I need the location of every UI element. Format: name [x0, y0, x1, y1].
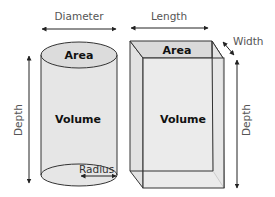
box-depth-label: Depth [240, 104, 252, 136]
cylinder-depth-label: Depth [12, 104, 24, 136]
length-label: Length [151, 10, 187, 22]
cylinder-area-label: Area [65, 49, 94, 62]
box-volume-label: Volume [160, 113, 206, 126]
diameter-label: Diameter [54, 10, 104, 22]
shapes-diagram: Diameter Length Width Depth Depth Area V… [0, 0, 275, 197]
radius-label: Radius [79, 163, 114, 175]
cylinder-volume-label: Volume [55, 113, 101, 126]
box-area-label: Area [163, 44, 192, 57]
box-left-face [130, 41, 143, 188]
width-label: Width [233, 35, 264, 47]
